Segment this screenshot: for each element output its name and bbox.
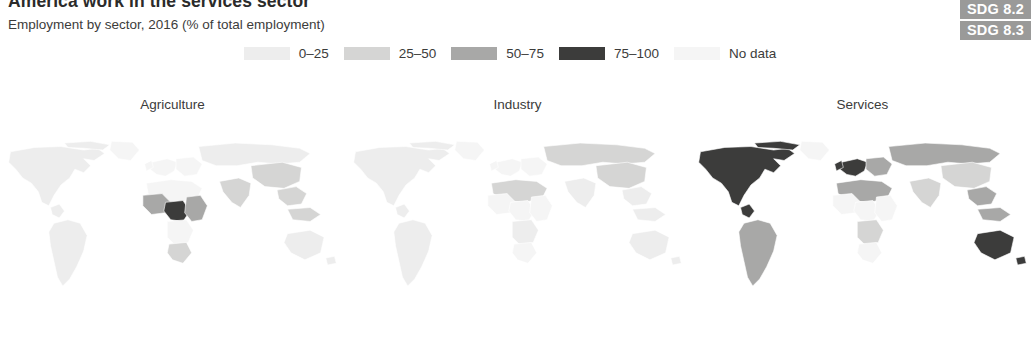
map-panel-agriculture: Agriculture [0,96,345,326]
map-panel-group: Agriculture Industry Services [0,96,1035,326]
map-panel-services: Services [690,96,1035,326]
map-region [284,230,324,260]
legend-item-50-75: 50–75 [451,46,559,61]
map-region [9,147,105,206]
map-panel-title-industry: Industry [345,96,690,114]
legend-item-no-data: No data [674,46,791,61]
map-region [633,208,666,222]
map-region [394,220,432,286]
legend-label-50-75: 50–75 [506,46,544,61]
legend-item-0-25: 0–25 [244,46,344,61]
map-panel-title-agriculture: Agriculture [0,96,345,114]
map-region [671,256,681,265]
map-region [629,230,669,260]
legend-label-25-50: 25–50 [399,46,437,61]
map-region [251,162,302,188]
map-region [167,242,191,263]
map-region [455,141,485,160]
map-region [199,143,311,166]
map-region [699,147,795,206]
map-panel-industry: Industry [345,96,690,326]
legend-label-75-100: 75–100 [614,46,659,61]
legend-swatch-75-100 [559,47,605,60]
map-region [326,256,336,265]
world-map-industry [345,122,690,307]
map-region [739,220,777,286]
map-region [530,195,553,221]
sdg-badge-8-3: SDG 8.3 [960,21,1031,40]
map-region [512,242,536,263]
map-region [49,220,87,286]
map-region [521,157,547,176]
figure-subtitle: Employment by sector, 2016 (% of total e… [8,17,325,32]
map-region [495,159,523,176]
world-map-agriculture [0,122,345,307]
legend-label-no-data: No data [729,46,776,61]
map-panel-title-services: Services [690,96,1035,114]
map-region [978,208,1011,222]
map-region [875,195,898,221]
map-region [176,157,202,176]
map-region [512,220,538,246]
map-region [354,147,450,206]
legend-swatch-no-data [674,47,720,60]
map-region [110,141,140,160]
map-region [220,178,251,208]
legend: 0–25 25–50 50–75 75–100 No data [0,46,1035,61]
map-region [622,187,652,206]
map-region [596,162,647,188]
map-region [840,159,868,176]
map-region [857,220,883,246]
map-region [866,157,892,176]
map-region [1016,256,1026,265]
legend-label-0-25: 0–25 [299,46,329,61]
legend-swatch-50-75 [451,47,497,60]
page-title: America work in the services sector [8,0,310,12]
sdg-badge-8-2: SDG 8.2 [960,0,1031,19]
map-region [544,143,656,166]
legend-item-25-50: 25–50 [344,46,452,61]
sdg-badge-group: SDG 8.2 SDG 8.3 [960,0,1031,40]
map-region [857,242,881,263]
map-region [800,141,830,160]
legend-item-75-100: 75–100 [559,46,674,61]
map-region [167,220,193,246]
map-region [51,204,65,218]
map-region [974,230,1014,260]
map-region [910,178,941,208]
map-region [150,159,178,176]
world-map-services [690,122,1035,307]
map-region [889,143,1001,166]
map-region [741,204,755,218]
map-region [941,162,992,188]
map-region [277,187,307,206]
map-region [288,208,321,222]
legend-swatch-0-25 [244,47,290,60]
map-region [185,195,208,221]
map-region [967,187,997,206]
map-region [396,204,410,218]
legend-swatch-25-50 [344,47,390,60]
map-region [565,178,596,208]
